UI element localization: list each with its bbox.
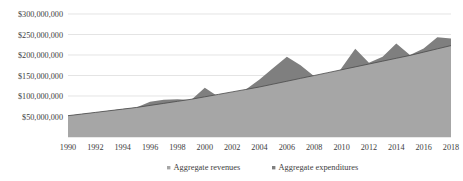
x-axis-tick-label: 2004 xyxy=(251,143,267,152)
x-axis-tick-label: 2002 xyxy=(224,143,240,152)
x-axis-tick-label: 1994 xyxy=(115,143,131,152)
x-axis-tick-label: 2018 xyxy=(443,143,459,152)
y-axis-tick-labels: $50,000,000$100,000,000$150,000,000$200,… xyxy=(18,10,63,122)
y-axis-tick-label: $150,000,000 xyxy=(18,72,63,81)
y-axis-tick-label: $100,000,000 xyxy=(18,92,63,101)
x-axis-tick-labels: 1990199219941996199820002002200420062008… xyxy=(60,143,459,152)
y-axis-tick-label: $50,000,000 xyxy=(22,113,63,122)
x-axis-tick-label: 1992 xyxy=(87,143,103,152)
area-aggregate-revenues xyxy=(68,46,451,137)
x-axis-tick-label: 2006 xyxy=(279,143,295,152)
x-axis-tick-label: 2008 xyxy=(306,143,322,152)
plot-areas xyxy=(68,37,451,137)
x-axis-tick-label: 1998 xyxy=(169,143,185,152)
x-axis-tick-label: 1996 xyxy=(142,143,158,152)
x-axis-tick-label: 1990 xyxy=(60,143,76,152)
area-chart: $50,000,000$100,000,000$150,000,000$200,… xyxy=(0,0,463,181)
chart-legend: Aggregate revenuesAggregate expenditures xyxy=(167,163,358,172)
legend-swatch xyxy=(272,166,275,169)
y-axis-tick-label: $300,000,000 xyxy=(18,10,63,19)
legend-label: Aggregate expenditures xyxy=(279,163,359,172)
legend-label: Aggregate revenues xyxy=(174,163,241,172)
chart-container: $50,000,000$100,000,000$150,000,000$200,… xyxy=(0,0,463,181)
x-axis-tick-label: 2012 xyxy=(361,143,377,152)
y-axis-tick-label: $250,000,000 xyxy=(18,31,63,40)
y-axis-tick-label: $200,000,000 xyxy=(18,51,63,60)
x-axis-tick-label: 2016 xyxy=(415,143,431,152)
legend-swatch xyxy=(167,166,170,169)
x-axis-tick-label: 2000 xyxy=(197,143,213,152)
x-axis-tick-label: 2014 xyxy=(388,143,404,152)
x-axis-tick-label: 2010 xyxy=(333,143,349,152)
